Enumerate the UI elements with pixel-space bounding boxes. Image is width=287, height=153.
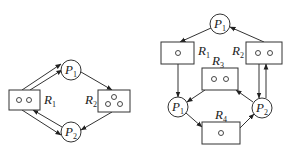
edge-r2-p1top	[230, 27, 264, 42]
left-process-p1: P1	[61, 60, 81, 80]
edge-r3-p1left	[187, 90, 205, 102]
right-process-p1-left: P1	[168, 97, 188, 117]
instance-dot	[212, 77, 217, 82]
edge-p2-r1	[33, 110, 62, 127]
instance-dot	[256, 51, 261, 56]
svg-text:R1: R1	[197, 43, 210, 60]
instance-dot	[118, 102, 123, 107]
instance-dot	[224, 77, 229, 82]
resource-allocation-graphs: P1 P2 R1 R2	[0, 0, 287, 153]
edge-p1left-r4	[186, 113, 202, 127]
instance-dot	[106, 102, 111, 107]
instance-dot	[176, 51, 181, 56]
left-resource-r2: R2	[84, 90, 130, 112]
edge-p1-r2	[81, 72, 112, 90]
svg-text:R3: R3	[211, 53, 224, 70]
right-process-p2: P2	[252, 98, 272, 118]
instance-dot	[219, 131, 224, 136]
edge-p2-r3	[236, 90, 253, 102]
edge-r4-p2	[240, 114, 254, 128]
edge-r1-p1-a	[22, 64, 61, 90]
instance-dot	[17, 98, 22, 103]
left-process-p2: P2	[61, 122, 81, 142]
instance-dot	[268, 51, 273, 56]
right-resource-r2: R2	[231, 42, 282, 64]
left-resource-r1: R1	[9, 90, 56, 110]
right-resource-r1: R1	[161, 42, 210, 64]
edge-r2-p2	[81, 112, 112, 130]
left-diagram: P1 P2 R1 R2	[9, 60, 130, 142]
svg-text:R2: R2	[231, 43, 244, 60]
right-diagram: P1 R1 R2 R3 P1 P2	[161, 14, 282, 144]
svg-text:R4: R4	[214, 107, 227, 124]
instance-dot	[27, 98, 32, 103]
edge-r1-p1-b	[30, 70, 62, 90]
instance-dot	[112, 95, 117, 100]
svg-text:R2: R2	[84, 92, 97, 109]
right-resource-r4: R4	[202, 107, 240, 144]
svg-text:R1: R1	[43, 92, 56, 109]
right-process-p1-top: P1	[210, 14, 230, 34]
edge-p1top-r1	[180, 28, 211, 42]
